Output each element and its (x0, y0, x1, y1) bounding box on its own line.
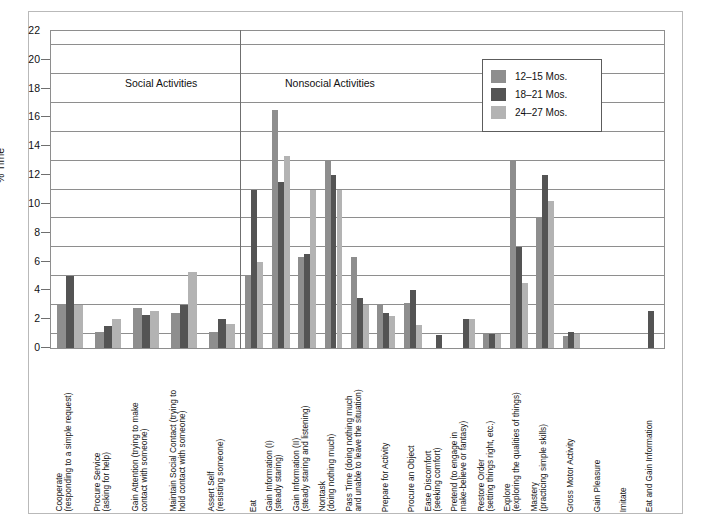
bar (436, 335, 442, 348)
bar (416, 325, 422, 348)
bar (522, 283, 528, 348)
bar (218, 319, 227, 348)
bar (337, 190, 343, 349)
y-tick-label: 12 (16, 169, 40, 179)
legend-item: 24–27 Mos. (491, 106, 593, 119)
y-tick-label: 18 (16, 83, 40, 93)
y-axis-title: % Time (0, 148, 6, 183)
bar (284, 156, 290, 348)
bar (469, 319, 475, 348)
y-tick (41, 203, 50, 204)
x-axis-label: Mastery(practicing simple skills) (530, 424, 549, 512)
y-tick (41, 59, 50, 60)
y-tick-label: 14 (16, 140, 40, 150)
y-tick (41, 116, 50, 117)
x-axis-label: Procure an Object (407, 445, 416, 512)
bar (95, 332, 104, 348)
bar (310, 190, 316, 349)
bar (209, 332, 218, 348)
x-axis-labels: Cooperate(responding to a simple request… (50, 352, 665, 514)
x-axis-label: Restore Order(setting things right, etc.… (477, 421, 496, 512)
gridline (51, 160, 664, 161)
bar (648, 311, 654, 348)
gridline (51, 189, 664, 190)
x-axis-label: Cooperate(responding to a simple request… (55, 393, 74, 512)
bar (142, 315, 151, 348)
y-tick-label: 8 (16, 227, 40, 237)
x-axis-label: Gain Attention (trying to makecontact wi… (131, 403, 150, 512)
bar (363, 305, 369, 348)
bar (112, 319, 121, 348)
bar (133, 308, 142, 348)
x-axis-label: Gross Motor Activity (566, 438, 575, 512)
x-axis-label: Maintain Social Contact (trying tohold c… (169, 390, 188, 512)
bar (180, 305, 189, 348)
y-tick (41, 145, 50, 146)
bar (574, 334, 580, 348)
x-axis-label: Ease Discomfort(seeking comfort) (424, 448, 443, 512)
x-axis-label: Gain Information (II)(steady staring and… (292, 406, 311, 512)
y-tick (41, 318, 50, 319)
x-axis-label: Nontask(doing nothing much) (319, 434, 338, 512)
y-tick (41, 174, 50, 175)
bar (495, 334, 501, 348)
y-tick-label: 10 (16, 198, 40, 208)
y-tick-label: 6 (16, 256, 40, 266)
bar (150, 311, 159, 348)
y-tick-label: 2 (16, 313, 40, 323)
gridline (51, 217, 664, 218)
bar (188, 272, 197, 348)
legend-swatch-18-21-mos (491, 88, 506, 101)
y-tick-label: 16 (16, 111, 40, 121)
x-axis-label: Assert Self(resisting someone) (207, 439, 226, 512)
bar (171, 313, 180, 348)
legend-swatch-12-15-mos (491, 70, 506, 83)
y-tick-label: 22 (16, 25, 40, 35)
y-tick (41, 347, 50, 348)
x-axis-label: Pass Time (doing nothing muchand unable … (345, 390, 364, 512)
bar (104, 326, 113, 348)
bar (57, 305, 66, 348)
x-axis-label: Eat and Gain Information (645, 420, 654, 512)
gridline (51, 275, 664, 276)
legend-label: 12–15 Mos. (515, 71, 567, 82)
bar (66, 276, 75, 348)
bar (389, 316, 395, 348)
x-axis-label: Imitate (619, 487, 628, 512)
x-axis-label: Procure Service(asking for help) (93, 453, 112, 513)
legend: 12–15 Mos. 18–21 Mos. 24–27 Mos. (482, 59, 602, 132)
x-axis-label: Prepare for Activity (381, 442, 390, 512)
section-title-social: Social Activities (125, 77, 197, 89)
legend-swatch-24-27-mos (491, 106, 506, 119)
gridline (51, 246, 664, 247)
legend-label: 24–27 Mos. (515, 107, 567, 118)
x-axis-label: Pretend (to engage inmake-believe or fan… (451, 421, 470, 512)
section-divider (240, 30, 241, 349)
bar (548, 201, 554, 348)
y-tick (41, 261, 50, 262)
bar (226, 324, 235, 348)
y-tick-label: 4 (16, 284, 40, 294)
y-tick (41, 232, 50, 233)
section-title-nonsocial: Nonsocial Activities (285, 77, 375, 89)
legend-item: 12–15 Mos. (491, 70, 593, 83)
x-axis-label: Gain Pleasure (592, 459, 601, 512)
bar (257, 262, 263, 348)
y-tick-label: 0 (16, 342, 40, 352)
x-axis-label: Gain Information (I)(steady staring) (266, 441, 285, 512)
x-axis-label: Eat (249, 500, 258, 512)
y-tick (41, 289, 50, 290)
bar (74, 305, 83, 348)
x-axis-label: Explore(exploring the qualities of thing… (504, 393, 523, 512)
y-tick-label: 20 (16, 54, 40, 64)
chart-figure: % Time 0246810121416182022 Social Activi… (0, 0, 705, 524)
legend-label: 18–21 Mos. (515, 89, 567, 100)
gridline (51, 44, 664, 45)
legend-item: 18–21 Mos. (491, 88, 593, 101)
y-tick (41, 88, 50, 89)
